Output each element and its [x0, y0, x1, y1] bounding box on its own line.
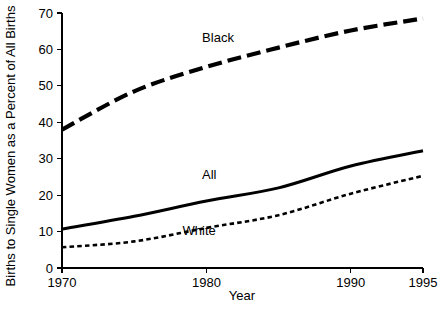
x-axis: 1970198019901995 — [48, 268, 438, 290]
chart-container: 010203040506070 1970198019901995 Black A… — [0, 0, 440, 311]
series-line-black — [62, 18, 423, 129]
x-tick-label: 1970 — [48, 275, 77, 290]
series-line-white — [62, 176, 423, 247]
series-label-all: All — [202, 167, 217, 182]
line-chart: 010203040506070 1970198019901995 Black A… — [0, 0, 440, 311]
x-tick-label: 1995 — [409, 275, 438, 290]
series-annotations: Black All White — [183, 30, 235, 238]
data-series-group — [62, 18, 423, 247]
x-axis-title: Year — [229, 288, 256, 303]
series-label-white: White — [183, 223, 216, 238]
y-axis: 010203040506070 — [39, 6, 62, 276]
y-tick-label: 60 — [39, 42, 53, 57]
y-tick-group: 010203040506070 — [39, 6, 62, 276]
y-axis-title: Births to Single Women as a Percent of A… — [3, 5, 18, 286]
y-tick-label: 0 — [46, 261, 53, 276]
y-tick-label: 50 — [39, 78, 53, 93]
x-tick-group: 1970198019901995 — [48, 268, 438, 290]
y-tick-label: 30 — [39, 151, 53, 166]
series-line-all — [62, 151, 423, 229]
y-tick-label: 10 — [39, 224, 53, 239]
x-tick-label: 1990 — [336, 275, 365, 290]
y-tick-label: 20 — [39, 188, 53, 203]
y-tick-label: 70 — [39, 6, 53, 21]
series-label-black: Black — [202, 30, 234, 45]
x-tick-label: 1980 — [192, 275, 221, 290]
y-tick-label: 40 — [39, 115, 53, 130]
